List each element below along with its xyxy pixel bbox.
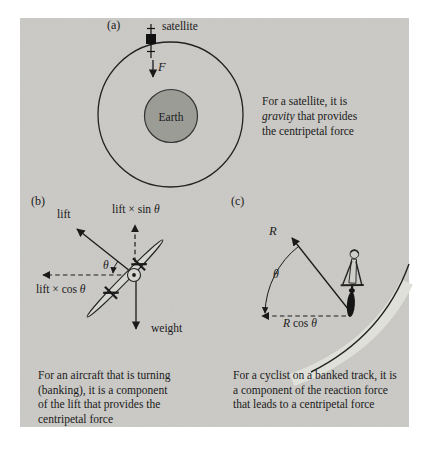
caption-b-line-4: centripetal force (38, 412, 171, 427)
caption-b-line-3: of the lift that provides the (38, 397, 171, 412)
caption-a: For a satellite, it is gravity that prov… (262, 94, 357, 139)
lift-cos-label: lift × cos θ (36, 283, 86, 296)
satellite-label: satellite (162, 20, 198, 33)
part-a-label: (a) (107, 19, 120, 32)
rcos-theta: θ (311, 317, 317, 329)
caption-a-line-2: gravity that provides (262, 109, 357, 124)
caption-c: For a cyclist on a banked track, it is a… (233, 368, 397, 412)
part-b-label: (b) (31, 195, 45, 208)
caption-b-line-1: For an aircraft that is turning (38, 368, 171, 383)
caption-c-line-1: For a cyclist on a banked track, it is (233, 368, 397, 383)
earth-label: Earth (159, 111, 184, 124)
reaction-r-label: R (269, 225, 277, 238)
weight-label: weight (151, 322, 182, 335)
textbook-figure: (a) satellite F Earth For a satellite, i… (0, 0, 433, 449)
lift-sin-prefix: lift × sin (112, 203, 154, 215)
caption-c-line-2: a component of the reaction force (233, 383, 397, 398)
caption-b: For an aircraft that is turning (banking… (38, 368, 171, 426)
caption-b-line-2: (banking), it is a component (38, 383, 171, 398)
caption-a-line-1: For a satellite, it is (262, 94, 357, 109)
grain-overlay (20, 18, 409, 427)
lift-label: lift (57, 208, 70, 221)
force-f-label: F (158, 61, 166, 74)
lift-sin-label: lift × sin θ (112, 203, 160, 216)
track-angle-theta-label: θ (273, 268, 279, 281)
rcos-mid: cos (290, 317, 311, 329)
caption-a-gravity-italic: gravity (262, 110, 295, 122)
part-c-label: (c) (231, 195, 244, 208)
lift-cos-theta: θ (80, 283, 86, 295)
bank-angle-theta-label: θ (103, 259, 109, 272)
caption-a-line-3: the centripetal force (262, 124, 357, 139)
rcos-r: R (283, 317, 290, 329)
rcos-label: R cos θ (283, 317, 317, 330)
caption-a-line-2-rest: that provides (295, 110, 358, 122)
caption-c-line-3: that leads to a centripetal force (233, 397, 397, 412)
lift-cos-prefix: lift × cos (36, 283, 80, 295)
lift-sin-theta: θ (154, 203, 160, 215)
